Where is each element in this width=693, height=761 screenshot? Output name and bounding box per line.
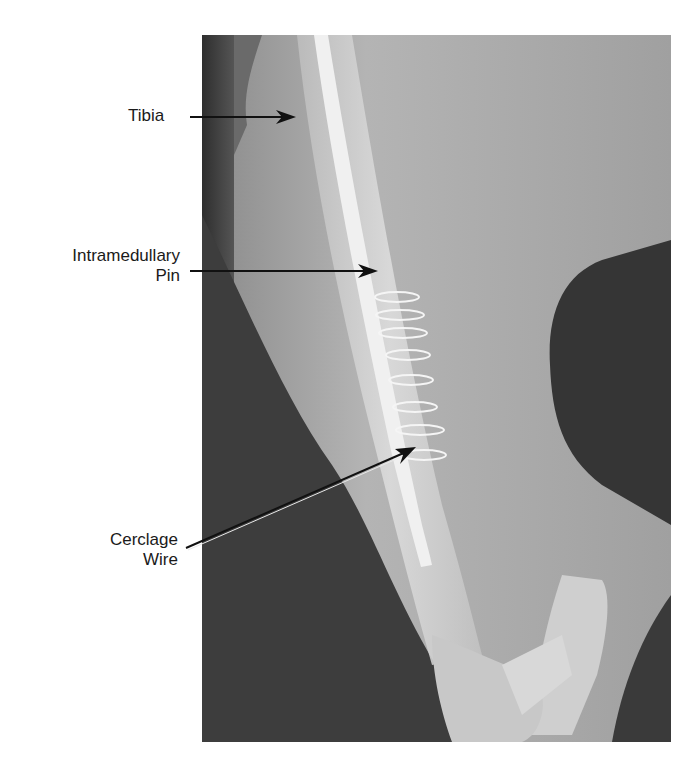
label-intramedullary-pin-line2: Pin	[28, 266, 180, 286]
label-tibia: Tibia	[128, 106, 164, 126]
label-cerclage-wire-line1: Cerclage	[60, 530, 178, 550]
label-intramedullary-pin-line1: Intramedullary	[28, 246, 180, 266]
label-intramedullary-pin: Intramedullary Pin	[28, 246, 180, 286]
xray-image	[202, 35, 671, 742]
label-cerclage-wire: Cerclage Wire	[60, 530, 178, 570]
label-cerclage-wire-line2: Wire	[60, 550, 178, 570]
